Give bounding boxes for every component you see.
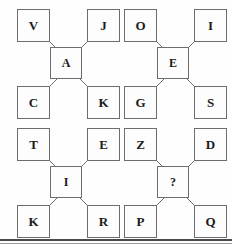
- cell-top-right: D: [194, 128, 227, 161]
- cell-bottom-left: P: [124, 205, 157, 238]
- cell-bottom-right: R: [87, 205, 120, 238]
- cell-top-left: Z: [124, 128, 157, 161]
- cell-top-left: T: [17, 128, 50, 161]
- cell-bottom-right: S: [194, 86, 227, 119]
- cell-bottom-left: G: [124, 86, 157, 119]
- cell-center: I: [50, 166, 82, 198]
- puzzle-group: Z D P Q ?: [124, 128, 227, 238]
- bottom-divider: [0, 239, 232, 241]
- cell-top-right: J: [87, 9, 120, 42]
- puzzle-grid: V J C K A O I G S E: [0, 0, 232, 236]
- cell-top-right: E: [87, 128, 120, 161]
- cell-top-left: O: [124, 9, 157, 42]
- cell-top-left: V: [17, 9, 50, 42]
- cell-center: A: [50, 47, 82, 79]
- cell-bottom-right: K: [87, 86, 120, 119]
- cell-top-right: I: [194, 9, 227, 42]
- bottom-divider-thin: [0, 243, 232, 244]
- puzzle-group: O I G S E: [124, 9, 227, 119]
- cell-bottom-left: C: [17, 86, 50, 119]
- puzzle-page: V J C K A O I G S E: [0, 0, 232, 249]
- puzzle-group: T E K R I: [17, 128, 120, 238]
- cell-bottom-left: K: [17, 205, 50, 238]
- puzzle-group: V J C K A: [17, 9, 120, 119]
- cell-center-unknown: ?: [157, 166, 189, 198]
- cell-center: E: [157, 47, 189, 79]
- cell-bottom-right: Q: [194, 205, 227, 238]
